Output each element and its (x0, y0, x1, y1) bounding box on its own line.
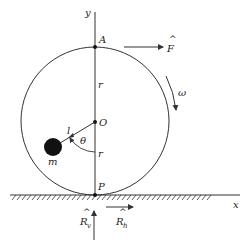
label-radius-upper: r (98, 79, 104, 90)
mass-bob (44, 138, 62, 156)
label-radius-lower: r (98, 148, 104, 159)
ground-hatching (12, 195, 211, 200)
label-point-A: A (98, 34, 106, 45)
ground (10, 195, 240, 200)
label-angle-theta: θ (80, 135, 86, 146)
label-point-P: P (97, 181, 105, 192)
point-A (93, 45, 97, 49)
label-y-axis: y (84, 7, 91, 18)
point-P (93, 193, 97, 197)
label-force-F: F (166, 43, 175, 54)
label-omega: ω (178, 87, 186, 98)
pendulum-arm (60, 122, 95, 143)
wheel-pendulum-diagram: y x A O P r r θ l m ω ^ F ^ R v ^ R h (0, 0, 252, 251)
label-mass: m (48, 156, 57, 167)
label-x-axis: x (233, 199, 239, 210)
label-reaction-vertical-sub: v (87, 222, 91, 230)
label-arm-length: l (67, 125, 70, 136)
label-point-O: O (99, 117, 107, 128)
label-reaction-horizontal-sub: h (123, 222, 128, 230)
